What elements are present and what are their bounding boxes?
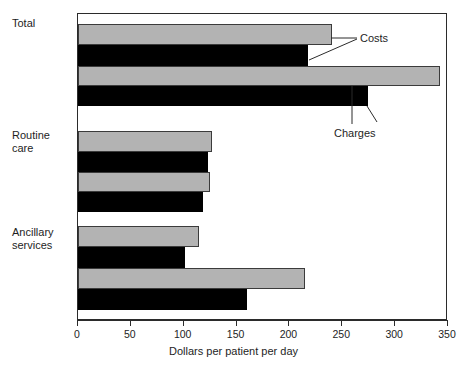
bar-total-costs-black bbox=[78, 45, 308, 66]
x-tick-label-350: 350 bbox=[438, 328, 456, 340]
annotation-label-charges: Charges bbox=[334, 127, 376, 139]
x-tick-label-200: 200 bbox=[280, 328, 298, 340]
bar-routine-costs-gray bbox=[78, 131, 212, 152]
bar-routine-charges-gray bbox=[78, 172, 210, 192]
x-tick-label-150: 150 bbox=[227, 328, 245, 340]
x-tick-150 bbox=[236, 320, 237, 326]
bar-chart: Total Routine care Ancillary services Co… bbox=[0, 0, 467, 365]
x-tick-50 bbox=[130, 320, 131, 326]
x-tick-350 bbox=[447, 320, 448, 326]
x-tick-300 bbox=[394, 320, 395, 326]
x-axis-title: Dollars per patient per day bbox=[0, 345, 467, 357]
x-tick-200 bbox=[288, 320, 289, 326]
x-tick-label-300: 300 bbox=[385, 328, 403, 340]
bar-routine-charges-black bbox=[78, 192, 203, 212]
x-tick-250 bbox=[341, 320, 342, 326]
category-label-total: Total bbox=[12, 17, 35, 30]
bar-ancillary-charges-gray bbox=[78, 268, 305, 289]
x-tick-0 bbox=[77, 320, 78, 326]
annotation-label-costs: Costs bbox=[360, 32, 388, 44]
x-tick-label-250: 250 bbox=[333, 328, 351, 340]
bar-ancillary-charges-black bbox=[78, 289, 247, 310]
bar-routine-costs-black bbox=[78, 152, 208, 172]
x-tick-label-100: 100 bbox=[174, 328, 192, 340]
category-label-routine: Routine care bbox=[12, 129, 50, 155]
x-axis-line bbox=[77, 320, 447, 321]
category-label-ancillary: Ancillary services bbox=[12, 226, 54, 252]
x-tick-label-0: 0 bbox=[74, 328, 80, 340]
bar-total-charges-gray bbox=[78, 66, 440, 86]
x-tick-100 bbox=[183, 320, 184, 326]
bar-ancillary-costs-gray bbox=[78, 226, 199, 247]
x-tick-label-50: 50 bbox=[124, 328, 136, 340]
bar-total-charges-black bbox=[78, 86, 368, 106]
bar-ancillary-costs-black bbox=[78, 247, 185, 268]
bar-total-costs-gray bbox=[78, 24, 332, 45]
